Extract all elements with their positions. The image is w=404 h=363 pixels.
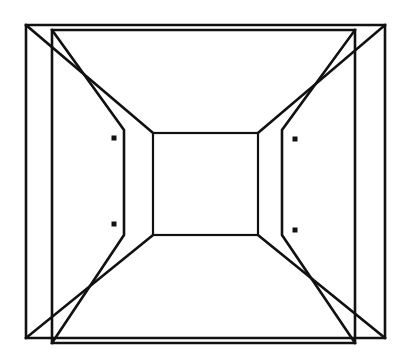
marker-upper-left-square xyxy=(112,136,117,141)
marker-lower-left-square xyxy=(112,222,117,227)
perspective-corridor-drawing xyxy=(0,0,404,363)
marker-upper-right-square xyxy=(293,137,298,142)
marker-lower-right-square xyxy=(293,228,298,233)
illusion-figure-canvas: Perspective corridor depth illusion Line… xyxy=(0,0,404,363)
